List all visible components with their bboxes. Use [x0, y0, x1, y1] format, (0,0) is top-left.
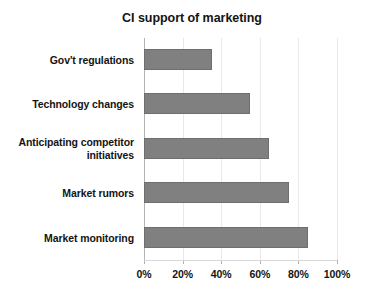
- bar-track: [144, 127, 337, 171]
- category-label-row: Gov't regulations: [6, 38, 138, 82]
- plot-area: [144, 38, 337, 260]
- x-axis-tick-labels: 0%20%40%60%80%100%: [144, 268, 337, 284]
- bar: [144, 138, 269, 159]
- tickmark-100pct: [337, 260, 338, 264]
- bar-track: [144, 171, 337, 215]
- bar: [144, 227, 308, 248]
- category-axis-labels: Gov't regulationsTechnology changesAntic…: [6, 38, 138, 260]
- bar: [144, 182, 289, 203]
- bar-track: [144, 216, 337, 260]
- bar-track: [144, 82, 337, 126]
- category-label: Market rumors: [62, 187, 138, 200]
- category-label: Anticipating competitor initiatives: [6, 136, 138, 161]
- bar-chart-figure: CI support of marketing Gov't regulation…: [0, 0, 366, 300]
- bar-track: [144, 38, 337, 82]
- category-label: Market monitoring: [44, 232, 138, 245]
- bar: [144, 93, 250, 114]
- category-label-row: Anticipating competitor initiatives: [6, 127, 138, 171]
- chart-title: CI support of marketing: [0, 11, 366, 25]
- gridline-100pct: [337, 38, 338, 260]
- category-label: Technology changes: [32, 98, 138, 111]
- x-tick-label: 100%: [314, 268, 360, 280]
- category-label-row: Technology changes: [6, 82, 138, 126]
- category-label-row: Market rumors: [6, 171, 138, 215]
- bar: [144, 49, 212, 70]
- x-axis-line: [144, 260, 337, 261]
- category-label-row: Market monitoring: [6, 216, 138, 260]
- category-label: Gov't regulations: [50, 54, 138, 67]
